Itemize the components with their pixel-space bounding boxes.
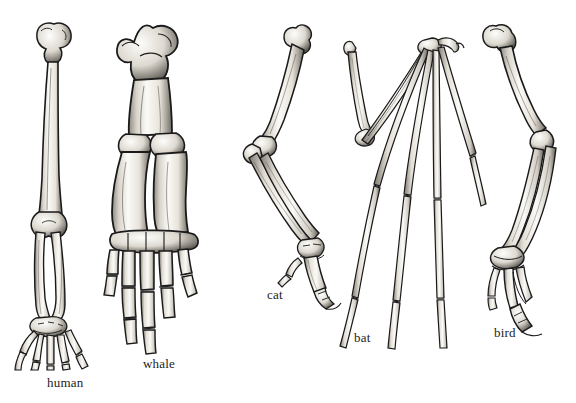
label-bird: bird bbox=[494, 326, 516, 339]
whale-humerus bbox=[117, 25, 178, 136]
specimen-cat bbox=[240, 22, 342, 310]
label-human: human bbox=[47, 376, 83, 389]
whale-radius-ulna bbox=[112, 133, 188, 238]
human-radius-ulna bbox=[35, 232, 66, 321]
bird-radius-ulna bbox=[500, 146, 556, 256]
homologous-limbs-figure: human whale cat bat bird bbox=[0, 0, 576, 403]
human-humerus bbox=[31, 23, 71, 238]
label-bat: bat bbox=[354, 331, 370, 344]
specimen-whale bbox=[96, 12, 222, 354]
cat-humerus bbox=[252, 25, 311, 157]
specimen-bird bbox=[470, 16, 574, 340]
specimen-bat bbox=[338, 14, 486, 350]
human-hand-digits bbox=[15, 330, 88, 370]
cat-metacarpals-phalanges bbox=[278, 256, 341, 309]
label-cat: cat bbox=[267, 288, 283, 301]
whale-metacarpals-phalanges bbox=[104, 249, 197, 354]
label-whale: whale bbox=[143, 357, 175, 370]
cat-radius-ulna bbox=[243, 144, 319, 244]
bird-humerus bbox=[483, 25, 554, 152]
bird-carpals bbox=[491, 246, 524, 270]
